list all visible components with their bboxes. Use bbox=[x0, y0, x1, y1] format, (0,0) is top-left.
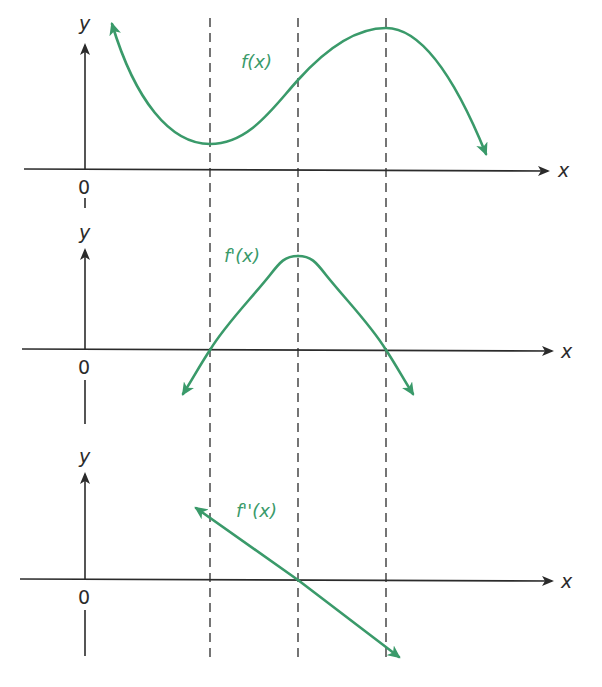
panel-f-double-prime: y x 0 f''(x) bbox=[20, 445, 573, 657]
x-axis bbox=[22, 349, 552, 351]
x-axis bbox=[20, 579, 552, 581]
origin-label: 0 bbox=[78, 176, 90, 198]
curve-f-prime-right bbox=[298, 256, 413, 394]
origin-label: 0 bbox=[78, 586, 90, 608]
panel-f: y x 0 f(x) bbox=[24, 12, 570, 208]
x-axis-label: x bbox=[560, 340, 573, 362]
curve-f-double-prime-right bbox=[298, 580, 399, 657]
y-axis-label: y bbox=[78, 221, 91, 243]
curve-label-f-prime: f'(x) bbox=[224, 245, 260, 266]
curve-f-right bbox=[210, 28, 486, 154]
x-axis-label: x bbox=[557, 159, 570, 181]
origin-label: 0 bbox=[78, 356, 90, 378]
x-axis-label: x bbox=[560, 570, 573, 592]
curve-label-f: f(x) bbox=[241, 51, 272, 72]
curve-f bbox=[112, 24, 210, 144]
x-axis bbox=[24, 169, 548, 171]
derivative-graphs: y x 0 f(x) y x 0 f'(x) y x 0 f''(x) bbox=[0, 0, 602, 687]
curve-label-f-double-prime: f''(x) bbox=[236, 500, 277, 521]
y-axis-label: y bbox=[78, 12, 91, 34]
y-axis-label: y bbox=[78, 445, 91, 467]
curve-f-prime-left bbox=[183, 256, 298, 394]
guide-lines bbox=[210, 18, 386, 660]
